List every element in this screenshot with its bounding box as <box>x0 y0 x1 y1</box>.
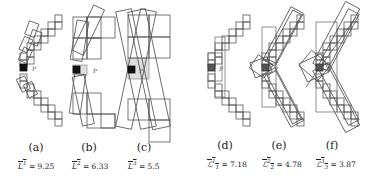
caption-c: (c) <box>129 141 159 154</box>
metric-d: ℒ11 = 7.18 <box>207 158 247 170</box>
caption-b: (b) <box>74 141 104 154</box>
point-p-label-d: P <box>219 65 223 72</box>
panel-c-diagram <box>116 9 171 142</box>
metric-c: L3 = 5.5 <box>128 160 159 171</box>
metric-a: L1 = 9.25 <box>18 160 54 171</box>
point-p-label-a: P <box>32 65 36 72</box>
panel-d-diagram <box>208 15 250 126</box>
caption-f: (f) <box>317 139 347 152</box>
metric-f: ℒ33 = 3.87 <box>316 158 356 170</box>
metric-b: L2 = 6.33 <box>72 160 108 171</box>
caption-e: (e) <box>264 139 294 152</box>
panel-a-diagram <box>15 15 62 126</box>
point-p-label-f: P <box>328 65 332 72</box>
figure-canvas <box>0 0 377 180</box>
caption-a: (a) <box>21 141 51 154</box>
point-p-label-b: P <box>93 67 97 74</box>
metric-e: ℒ22 = 4.78 <box>262 158 302 170</box>
point-p-label-c: P <box>139 67 143 74</box>
point-p-label-e: P <box>274 65 278 72</box>
caption-d: (d) <box>210 139 240 152</box>
